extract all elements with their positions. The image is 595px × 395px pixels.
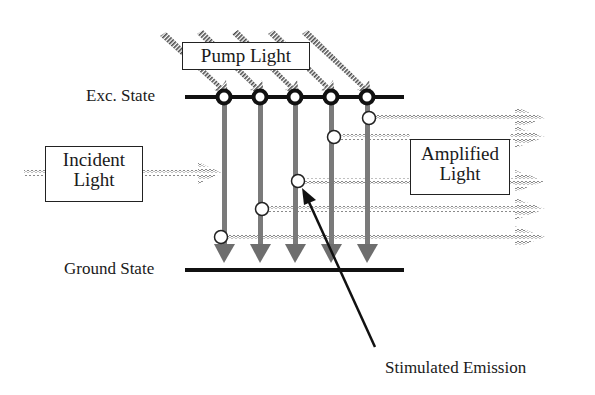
transition-arrow-4 <box>329 104 334 246</box>
incident-light-label-line1: Incident <box>46 150 142 170</box>
transition-arrow-5 <box>365 104 370 246</box>
diagram-canvas: Pump Light Incident Light Amplified Ligh… <box>0 0 595 395</box>
excited-state-label: Exc. State <box>86 86 155 106</box>
transition-arrow-1 <box>222 104 227 246</box>
incident-light-label-line2: Light <box>46 170 142 190</box>
transition-arrow-2 <box>258 104 263 246</box>
ground-state-label: Ground State <box>64 259 154 279</box>
incident-light-box: Incident Light <box>45 146 143 202</box>
amplified-light-label-line2: Light <box>411 164 509 184</box>
amplified-light-box: Amplified Light <box>410 139 510 195</box>
pump-light-label: Pump Light <box>201 45 291 66</box>
pump-arrow-5 <box>302 30 371 94</box>
amplified-light-label-line1: Amplified <box>411 144 509 164</box>
stimulated-emission-label: Stimulated Emission <box>385 358 526 378</box>
pump-light-box: Pump Light <box>182 42 310 70</box>
